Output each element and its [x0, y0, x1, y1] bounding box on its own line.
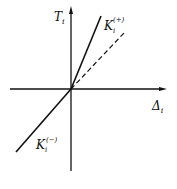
vertical-axis-label: Ti — [54, 10, 65, 26]
horizontal-axis-label: Δi — [151, 99, 164, 115]
dashed-reference-line — [71, 33, 124, 89]
stiffness-diagram: Ti Δi K i (+) K i (−) — [0, 0, 177, 189]
k-minus-subscript: i — [45, 146, 47, 154]
k-plus-line — [71, 16, 101, 89]
k-minus-superscript: (−) — [46, 136, 58, 144]
k-plus-subscript: i — [113, 27, 115, 35]
k-plus-superscript: (+) — [113, 16, 125, 24]
horizontal-axis-arrow-icon — [159, 87, 167, 91]
vertical-axis-arrow-icon — [69, 6, 73, 14]
